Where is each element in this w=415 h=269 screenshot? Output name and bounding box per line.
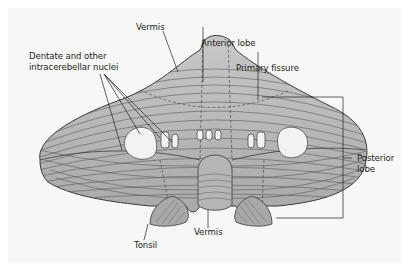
label-anterior-lobe: Anterior lobe [201,38,256,49]
label-nuclei-line2: intracerebellar nuclei [29,62,118,73]
inferior-vermis [198,155,232,210]
label-primary-fissure: Primary fissure [236,63,299,74]
label-nuclei-line1: Dentate and other [29,51,106,62]
label-tonsil: Tonsil [134,240,157,251]
label-posterior-lobe-line1: Posterior [357,153,394,164]
label-posterior-lobe-line2: lobe [357,164,375,175]
label-vermis-bottom: Vermis [194,227,223,238]
label-vermis-top: Vermis [136,22,165,33]
